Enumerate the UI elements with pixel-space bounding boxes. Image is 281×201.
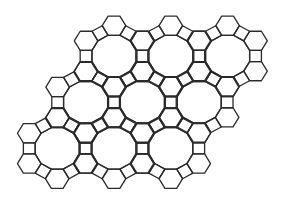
square (64, 72, 80, 87)
square (194, 50, 206, 61)
square (193, 50, 205, 61)
square (149, 164, 165, 179)
square (120, 26, 136, 41)
dodecagon (177, 82, 221, 123)
square (164, 97, 176, 108)
dodecagon (120, 82, 164, 123)
square-group (23, 26, 261, 179)
square (221, 97, 233, 108)
square (205, 117, 221, 132)
square (52, 97, 64, 108)
square (120, 164, 136, 179)
square (35, 118, 51, 133)
square (108, 97, 120, 108)
dodecagon (149, 35, 193, 76)
square (193, 143, 205, 154)
square (92, 26, 108, 41)
dodecagon (206, 35, 250, 76)
square (136, 143, 148, 154)
tiling-svg (0, 0, 281, 201)
square (137, 50, 149, 61)
square (136, 50, 148, 61)
square (137, 143, 149, 154)
square (63, 164, 79, 179)
square (250, 50, 262, 61)
tiling-diagram (0, 0, 281, 201)
dodecagon (35, 128, 79, 169)
square (149, 26, 165, 41)
hexagon-group (17, 16, 267, 188)
dodecagon-group (35, 35, 249, 169)
dodecagon (92, 128, 136, 169)
dodecagon (149, 128, 193, 169)
square (79, 143, 91, 154)
dodecagon (92, 35, 136, 76)
square (35, 164, 51, 179)
square (92, 164, 108, 179)
square (177, 26, 193, 41)
square (206, 26, 222, 41)
square (177, 164, 193, 179)
square (109, 97, 121, 108)
square (234, 71, 250, 86)
square (80, 50, 92, 61)
square (80, 143, 92, 154)
square (23, 143, 35, 154)
square (165, 97, 177, 108)
dodecagon (64, 82, 108, 123)
square (234, 26, 250, 41)
